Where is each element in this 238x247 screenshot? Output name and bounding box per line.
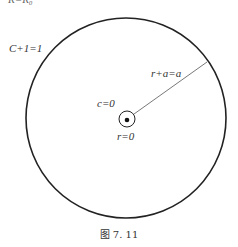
diagram-canvas: [0, 0, 238, 247]
center-dot: [125, 118, 130, 123]
label-outer-circle: C+1=1: [9, 42, 42, 54]
figure: R=R₀ C+1=1 r+a=a c=0 r=0 图 7. 11: [0, 0, 238, 247]
figure-caption: 图 7. 11: [0, 226, 238, 241]
label-radius: r+a=a: [151, 67, 181, 79]
top-partial-formula: R=R₀: [8, 0, 33, 5]
label-inner-r: r=0: [117, 130, 134, 142]
label-inner-c: c=0: [97, 97, 115, 109]
